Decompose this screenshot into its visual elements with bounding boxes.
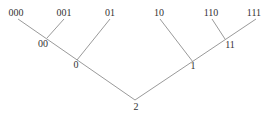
tree-node-label-001: 001 (57, 7, 72, 18)
binary-tree-diagram: 00000101101101110011012 (0, 0, 274, 120)
tree-edge-001-00 (47, 19, 64, 38)
tree-node-label-0: 0 (74, 59, 79, 70)
tree-edge-10-1 (160, 19, 193, 62)
tree-node-label-110: 110 (204, 7, 219, 18)
tree-node-label-11: 11 (225, 39, 235, 50)
tree-edge-111-2 (135, 19, 256, 100)
tree-node-label-01: 01 (105, 7, 115, 18)
tree-node-label-00: 00 (38, 38, 48, 49)
tree-edge-01-0 (77, 19, 110, 60)
tree-edge-110-11 (212, 19, 225, 39)
tree-edges (18, 19, 256, 100)
tree-node-label-000: 000 (9, 7, 24, 18)
tree-node-label-10: 10 (154, 7, 164, 18)
tree-node-label-2: 2 (134, 101, 139, 112)
tree-node-label-1: 1 (191, 60, 196, 71)
tree-node-label-111: 111 (247, 7, 261, 18)
tree-node-labels: 00000101101101110011012 (9, 7, 262, 112)
